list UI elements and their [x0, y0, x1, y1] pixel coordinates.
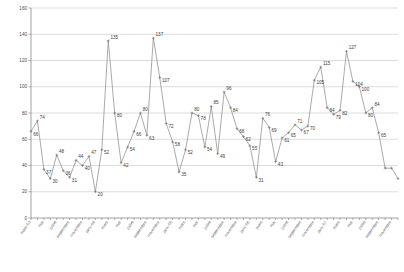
y-tick-label: 60 — [22, 137, 28, 142]
data-label: 74 — [40, 115, 46, 120]
data-label: 63 — [149, 136, 155, 141]
data-label: 65 — [291, 133, 297, 138]
data-point-marker — [184, 148, 187, 151]
data-label: 62 — [246, 137, 252, 142]
y-axis-ticks: 020406080100120140160 — [19, 6, 27, 221]
data-label: 40 — [85, 166, 91, 171]
x-tick-label: juillet — [279, 219, 290, 231]
data-point-marker — [203, 146, 206, 149]
data-point-marker — [216, 152, 219, 155]
data-label: 55 — [252, 146, 258, 151]
y-tick-label: 120 — [19, 58, 27, 63]
data-label: 85 — [213, 100, 219, 105]
data-label: 80 — [117, 113, 123, 118]
x-tick-label: mai — [114, 220, 122, 228]
data-label: 37 — [46, 170, 52, 175]
x-tick-label: mars — [254, 220, 263, 230]
data-label: 104 — [355, 82, 363, 87]
data-point-marker — [120, 161, 123, 164]
x-tick-label: mars — [177, 220, 186, 230]
data-label: 82 — [342, 111, 348, 116]
data-label: 42 — [123, 163, 129, 168]
data-point-marker — [384, 167, 387, 170]
data-label: 79 — [336, 115, 342, 120]
data-label: 52 — [188, 150, 194, 155]
data-point-marker — [152, 37, 155, 40]
data-label: 31 — [259, 178, 265, 183]
x-tick-label: mars-03 — [19, 219, 32, 235]
data-point-marker — [113, 112, 116, 115]
data-label: 84 — [374, 102, 380, 107]
data-label: 54 — [130, 147, 136, 152]
data-label: 65 — [381, 133, 387, 138]
y-tick-label: 20 — [22, 189, 28, 194]
data-label: 35 — [181, 172, 187, 177]
data-label: 31 — [72, 178, 78, 183]
x-tick-label: novembre — [378, 219, 393, 238]
data-label: 127 — [349, 45, 357, 50]
data-point-marker — [191, 112, 194, 115]
data-point-marker — [223, 91, 226, 94]
data-label: 137 — [156, 32, 164, 37]
data-point-marker — [94, 190, 97, 193]
data-label: 84 — [329, 108, 335, 113]
data-label: 44 — [78, 154, 84, 159]
data-label: 69 — [271, 128, 277, 133]
data-point-marker — [107, 39, 110, 42]
data-label: 48 — [59, 149, 65, 154]
data-point-marker — [145, 134, 148, 137]
data-label: 54 — [207, 147, 213, 152]
data-label: 80 — [143, 107, 149, 112]
data-label: 96 — [226, 86, 232, 91]
x-tick-label: mai — [346, 220, 354, 228]
x-tick-label: mars — [100, 220, 109, 230]
data-label: 115 — [323, 61, 331, 66]
data-label: 49 — [220, 154, 226, 159]
x-tick-label: janv-04 — [84, 219, 97, 234]
x-tick-label: novembre — [69, 219, 84, 238]
y-tick-label: 100 — [19, 84, 27, 89]
data-label: 76 — [265, 112, 271, 117]
x-tick-label: mai — [191, 220, 199, 228]
data-label: 66 — [33, 132, 39, 137]
data-point-marker — [377, 131, 380, 134]
data-point-marker — [139, 112, 142, 115]
y-tick-label: 40 — [22, 163, 28, 168]
data-point-marker — [158, 76, 161, 79]
y-tick-label: 80 — [22, 111, 28, 116]
x-tick-label: janv-05 — [161, 219, 174, 234]
data-label: 71 — [297, 119, 303, 124]
data-label: 107 — [162, 78, 170, 83]
data-label: 47 — [91, 150, 97, 155]
data-label: 80 — [194, 107, 200, 112]
y-tick-label: 140 — [19, 32, 27, 37]
data-label: 30 — [53, 179, 59, 184]
x-tick-label: mai — [269, 220, 277, 228]
data-label: 80 — [368, 113, 374, 118]
x-tick-label: juillet — [356, 219, 367, 231]
x-tick-label: janv-06 — [238, 219, 251, 234]
data-point-marker — [274, 160, 277, 163]
data-label: 52 — [104, 150, 110, 155]
data-label: 78 — [201, 116, 207, 121]
data-label: 66 — [136, 132, 142, 137]
data-label: 70 — [310, 126, 316, 131]
data-label: 58 — [175, 142, 181, 147]
data-point-marker — [255, 176, 258, 179]
x-tick-label: mars — [331, 220, 340, 230]
data-label: 61 — [284, 138, 290, 143]
data-label: 105 — [317, 80, 325, 85]
data-point-marker — [319, 66, 322, 69]
data-point-marker — [197, 114, 200, 117]
x-tick-label: juillet — [47, 219, 58, 231]
data-point-marker — [133, 130, 136, 133]
x-tick-label: juillet — [202, 219, 213, 231]
line-chart: 020406080100120140160 667437304836314440… — [0, 0, 404, 272]
data-point-marker — [165, 122, 168, 125]
data-label: 43 — [278, 162, 284, 167]
data-point-marker — [171, 140, 174, 143]
data-label: 20 — [98, 192, 104, 197]
data-point-marker — [313, 79, 316, 82]
chart-container: 020406080100120140160 667437304836314440… — [0, 0, 404, 272]
data-point-marker — [100, 148, 103, 151]
